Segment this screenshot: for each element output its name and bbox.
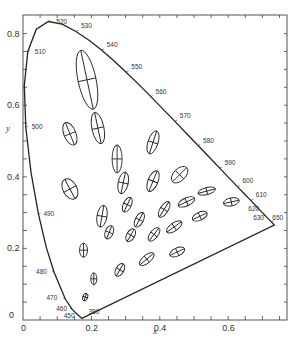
wavelength-label: 540: [107, 41, 118, 48]
macadam-ellipse: [60, 120, 80, 147]
macadam-ellipses: [59, 49, 240, 302]
y-tick-label: 0.8: [7, 29, 20, 39]
macadam-ellipse: [59, 176, 82, 202]
x-tick-label: 0.2: [85, 323, 98, 333]
macadam-ellipse: [168, 163, 191, 186]
macadam-ellipse: [91, 273, 97, 285]
wavelength-label: 520: [56, 18, 67, 25]
wavelength-tick: [175, 120, 177, 121]
macadam-ellipse: [156, 200, 172, 220]
wavelength-label: 490: [43, 210, 54, 217]
macadam-ellipse: [223, 196, 240, 207]
wavelength-label: 650: [272, 214, 283, 221]
wavelength-label: 530: [81, 22, 92, 29]
wavelength-tick: [76, 30, 78, 31]
wavelength-tick: [237, 185, 239, 186]
y-tick-label: 0.6: [7, 100, 20, 110]
macadam-ellipse: [81, 292, 88, 301]
spectral-locus: [24, 22, 274, 319]
wavelength-label: 480: [36, 268, 47, 275]
wavelength-label: 600: [242, 177, 253, 184]
macadam-ellipse: [103, 224, 116, 240]
macadam-ellipse: [113, 262, 127, 278]
macadam-ellipse: [112, 145, 122, 173]
macadam-ellipse: [145, 129, 162, 155]
axis-ticks: 00.20.40.600.20.40.60.8: [7, 15, 287, 333]
y-tick-label: 0.2: [7, 243, 20, 253]
macadam-ellipse: [144, 169, 162, 193]
macadam-ellipse: [177, 194, 197, 209]
wavelength-label: 570: [180, 112, 191, 119]
x-tick-label: 0: [21, 323, 26, 333]
macadam-ellipse: [80, 243, 88, 257]
wavelength-tick: [271, 221, 273, 222]
macadam-ellipse: [89, 111, 107, 145]
macadam-ellipse: [146, 226, 162, 244]
wavelength-label: 590: [225, 159, 236, 166]
y-tick-label: 0: [9, 310, 14, 320]
macadam-ellipse: [191, 209, 209, 223]
wavelength-tick: [126, 71, 128, 72]
macadam-ellipse: [132, 211, 147, 229]
wavelength-label: 620: [248, 205, 259, 212]
wavelength-label: 580: [203, 137, 214, 144]
wavelength-tick: [251, 199, 253, 200]
macadam-ellipse: [124, 227, 138, 243]
wavelength-label: 510: [35, 48, 46, 55]
macadam-ellipse: [168, 245, 186, 259]
wavelength-label: 550: [131, 63, 142, 70]
chromaticity-chart: 00.20.40.600.20.40.60.8 3804504604704804…: [0, 0, 300, 352]
wavelength-label: 630: [253, 214, 264, 221]
x-tick-label: 0.6: [222, 323, 235, 333]
wavelength-labels: 3804504604704804905005105205305405505605…: [26, 18, 284, 318]
wavelength-label: 470: [46, 294, 57, 301]
wavelength-tick: [220, 167, 222, 168]
wavelength-label: 380: [89, 308, 100, 315]
macadam-ellipse: [116, 171, 130, 195]
macadam-ellipse: [165, 218, 184, 235]
macadam-ellipse: [120, 196, 134, 214]
wavelength-tick: [102, 49, 104, 50]
wavelength-label: 610: [256, 191, 267, 198]
x-axis-label: x: [152, 326, 157, 336]
wavelength-tick: [198, 145, 200, 146]
spectral-locus-curve: [24, 22, 274, 319]
macadam-ellipse: [72, 49, 102, 111]
y-axis-label: y: [5, 123, 10, 133]
y-tick-label: 0.4: [7, 172, 20, 182]
macadam-ellipse: [197, 185, 216, 196]
wavelength-label: 460: [56, 305, 67, 312]
macadam-ellipse: [95, 204, 109, 227]
frame-rect: [23, 15, 287, 320]
plot-frame: [23, 15, 287, 320]
wavelength-label: 560: [156, 88, 167, 95]
macadam-ellipse: [137, 250, 156, 268]
wavelength-label: 450: [64, 312, 75, 319]
wavelength-label: 500: [32, 123, 43, 130]
